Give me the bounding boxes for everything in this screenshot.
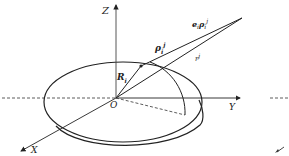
x-axis (21, 98, 116, 151)
diagram-canvas: Z Y X O Ri ρij eiρij rj (0, 0, 289, 156)
disk-bottom-rim (56, 100, 203, 145)
vector-r-label: rj (195, 53, 200, 63)
unit-rho-label: eiρij (192, 18, 208, 30)
z-axis-label: Z (102, 6, 109, 16)
projection-dashed-line (116, 98, 185, 115)
vector-R-label: Ri (117, 73, 127, 84)
origin-label: O (110, 101, 117, 110)
surface-arc (150, 62, 185, 115)
geometry-figure (0, 0, 289, 156)
vector-r (116, 18, 242, 98)
x-axis-label: X (31, 146, 37, 155)
y-axis-label: Y (229, 103, 235, 112)
vector-rho-label: ρij (155, 42, 165, 55)
arrow-fragment-icon (275, 146, 285, 154)
